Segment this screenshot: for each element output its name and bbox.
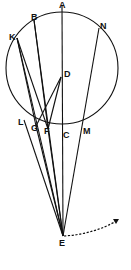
point-label-n: N (100, 21, 107, 31)
point-label-k: K (9, 32, 16, 42)
point-label-f: F (44, 126, 50, 136)
point-label-e: E (59, 238, 65, 248)
construction-lines (17, 6, 99, 236)
point-label-a: A (59, 0, 66, 10)
segment-l-e (24, 120, 63, 236)
point-label-m: M (83, 126, 91, 136)
point-label-b: B (31, 12, 38, 22)
point-label-c: C (63, 130, 70, 140)
arrow-head-icon (113, 219, 119, 224)
point-label-l: L (18, 117, 24, 127)
geometry-figure: ABNKDLGFCME (0, 0, 131, 270)
segment-a-e (62, 6, 63, 236)
point-label-d: D (64, 69, 71, 79)
segment-d-f (48, 77, 61, 129)
point-label-g: G (31, 123, 38, 133)
dashed-curved-arrow (64, 220, 118, 236)
segment-d-g (36, 77, 61, 126)
